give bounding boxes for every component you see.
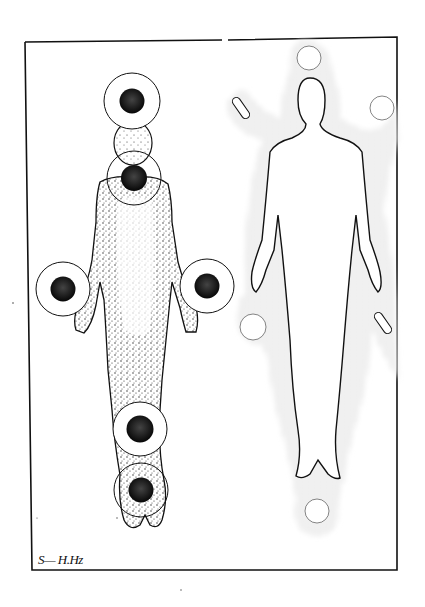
illustration-canvas	[0, 0, 425, 607]
top-white-circle	[297, 46, 321, 70]
crown-marker	[104, 73, 160, 129]
knee-marker	[113, 402, 167, 456]
shoulder-white-circle	[370, 96, 394, 120]
left-hand-marker	[36, 262, 90, 316]
hand-white-circle	[240, 314, 266, 340]
artist-signature: S— H.Hz	[38, 552, 83, 568]
feet-white-circle	[305, 499, 329, 523]
right-hand-marker	[180, 259, 234, 313]
